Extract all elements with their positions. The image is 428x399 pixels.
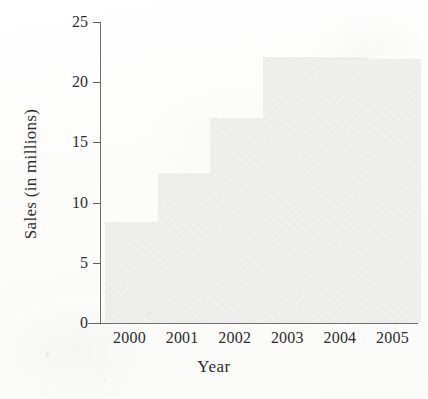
y-axis-line	[100, 22, 101, 323]
y-axis-tick	[93, 142, 101, 143]
plot-area: 0510152025 200020012002200320042005 Year…	[0, 0, 428, 399]
y-axis-tick-label-text: 0	[54, 315, 88, 331]
y-axis-title: Sales (in millions)	[21, 74, 41, 274]
y-axis-tick-label: 15	[52, 134, 88, 150]
y-axis-tick-label: 5	[52, 255, 88, 271]
scan-speck	[147, 312, 152, 315]
scan-speck	[46, 352, 49, 357]
scan-speck	[104, 378, 106, 380]
y-axis-tick-label-text: 15	[54, 134, 88, 150]
x-axis-title: Year	[0, 357, 428, 377]
y-axis-tick-label-text: 20	[54, 74, 88, 90]
x-axis-line	[88, 323, 418, 324]
bar-2005	[368, 59, 421, 323]
y-axis-tick-label: 10	[52, 195, 88, 211]
y-axis-tick	[93, 323, 101, 324]
x-axis-tick-label-2000: 2000	[103, 329, 156, 347]
y-axis-tick-label-text: 25	[54, 14, 88, 30]
x-axis-tick-label-2004: 2004	[313, 329, 366, 347]
y-axis-tick-label: 0	[52, 315, 88, 331]
x-axis-tick-label-2001: 2001	[156, 329, 209, 347]
x-axis-tick-label-2003: 2003	[261, 329, 314, 347]
y-axis-tick-label-text: 10	[54, 195, 88, 211]
y-axis-tick-label: 25	[52, 14, 88, 30]
bar-chart-figure: 0510152025 200020012002200320042005 Year…	[0, 0, 428, 399]
x-axis-tick-label-2002: 2002	[208, 329, 261, 347]
y-axis-tick	[93, 82, 101, 83]
y-axis-tick-label-text: 5	[54, 255, 88, 271]
bar-2000	[105, 222, 158, 323]
y-axis-tick	[93, 22, 101, 23]
scan-speck	[60, 243, 62, 245]
bar-2002	[210, 118, 263, 323]
y-axis-tick	[93, 203, 101, 204]
x-axis-tick-label-2005: 2005	[366, 329, 419, 347]
bar-2003	[263, 57, 316, 323]
bar-2004	[315, 57, 368, 323]
bar-2001	[158, 173, 211, 324]
y-axis-tick	[93, 263, 101, 264]
y-axis-tick-label: 20	[52, 74, 88, 90]
scan-speck	[278, 124, 281, 126]
